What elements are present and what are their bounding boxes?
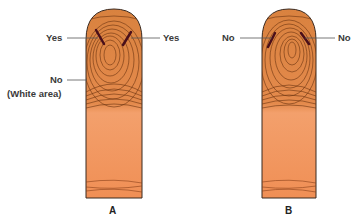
finger-b (261, 9, 317, 198)
label-a-left-yes: Yes (46, 33, 62, 43)
label-a-right-yes: Yes (163, 33, 179, 43)
label-b-right-no: No (338, 33, 351, 43)
panel-label-a: A (109, 206, 116, 216)
finger-a (84, 9, 144, 198)
label-b-left-no: No (222, 33, 235, 43)
label-a-white-area: (White area) (7, 89, 61, 99)
panel-label-b: B (285, 206, 292, 216)
label-a-left-no: No (50, 75, 63, 85)
